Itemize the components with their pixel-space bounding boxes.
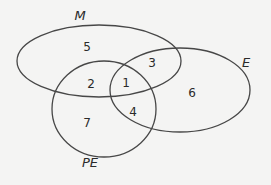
region-pe-only-value: 7 [83, 116, 91, 130]
set-e-label: E [242, 55, 251, 70]
set-e-outline [110, 48, 250, 132]
region-all-three-value: 1 [122, 76, 130, 90]
venn-diagram: M E PE 5 3 2 1 6 4 7 [0, 0, 271, 185]
region-m-only-value: 5 [83, 40, 91, 54]
set-m-label: M [74, 8, 85, 23]
region-m-pe-value: 2 [87, 77, 95, 91]
set-pe-outline [52, 61, 156, 157]
region-e-pe-value: 4 [129, 105, 137, 119]
set-pe-label: PE [82, 155, 99, 170]
region-e-only-value: 6 [188, 86, 196, 100]
region-m-e-value: 3 [148, 56, 156, 70]
